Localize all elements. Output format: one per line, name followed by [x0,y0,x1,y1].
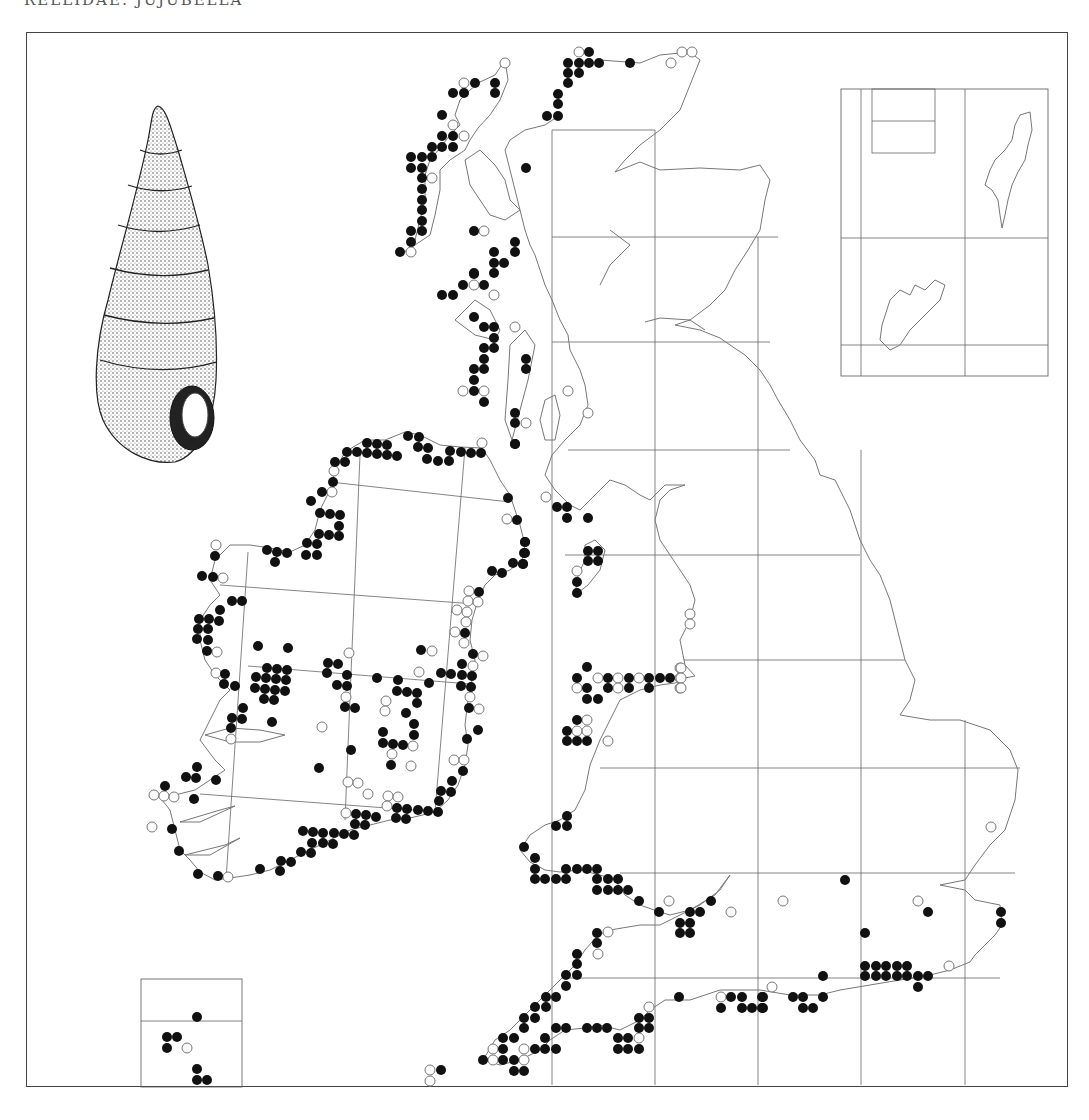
open-record-dot [479,226,489,236]
open-record-dot [510,322,520,332]
filled-record-dot [260,684,270,694]
filled-record-dot [510,247,520,257]
filled-record-dot [314,763,324,773]
filled-record-dot [818,992,828,1002]
filled-record-dot [509,1033,519,1043]
filled-record-dot [456,447,466,457]
open-record-dot [572,566,582,576]
open-record-dot [519,1044,529,1054]
open-record-dot [380,706,390,716]
filled-record-dot [512,515,522,525]
open-record-dot [986,822,996,832]
filled-record-dot [470,78,480,88]
filled-record-dot [230,681,240,691]
open-record-dot [488,1044,498,1054]
filled-record-dot [459,88,469,98]
filled-record-dot [913,982,923,992]
filled-record-dot [593,546,603,556]
filled-record-dot [276,856,286,866]
filled-record-dot [489,333,499,343]
open-record-dot [223,872,233,882]
filled-record-dot [613,1033,623,1043]
filled-record-dot [479,322,489,332]
filled-record-dot [469,386,479,396]
open-record-dot [406,247,416,257]
open-record-dot [459,78,469,88]
filled-record-dot [510,237,520,247]
filled-record-dot [193,624,203,634]
filled-record-dot [392,451,402,461]
filled-record-dot [582,694,592,704]
filled-record-dot [160,781,170,791]
filled-record-dot [351,809,361,819]
filled-record-dot [340,702,350,712]
filled-record-dot [625,58,635,68]
open-record-dot [613,683,623,693]
open-record-dot [685,619,695,629]
filled-record-dot [503,493,513,503]
filled-record-dot [433,456,443,466]
filled-record-dot [402,804,412,814]
filled-record-dot [561,970,571,980]
filled-record-dot [490,78,500,88]
filled-record-dot [395,247,405,257]
open-record-dot [408,741,418,751]
open-record-dot [465,692,475,702]
filled-record-dot [350,819,360,829]
filled-record-dot [499,258,509,268]
filled-record-dot [414,432,424,442]
open-record-dot [603,927,613,937]
filled-record-dot [623,885,633,895]
filled-record-dot [685,928,695,938]
filled-record-dot [328,839,338,849]
filled-record-dot [360,820,370,830]
filled-record-dot [402,687,412,697]
filled-record-dot [521,163,531,173]
filled-record-dot [675,928,685,938]
filled-record-dot [469,375,479,385]
open-record-dot [425,1065,435,1075]
open-record-dot [593,949,603,959]
open-record-dot [344,648,354,658]
filled-record-dot [923,971,933,981]
filled-record-dot [808,1003,818,1013]
filled-record-dot [413,442,423,452]
filled-record-dot [572,673,582,683]
filled-record-dot [593,694,603,704]
filled-record-dot [312,550,322,560]
open-record-dot [489,290,499,300]
filled-record-dot [308,827,318,837]
open-record-dot [381,696,391,706]
filled-record-dot [665,673,675,683]
open-record-dot [464,586,474,596]
filled-record-dot [498,1033,508,1043]
filled-record-dot [446,787,456,797]
open-record-dot [716,992,726,1002]
filled-record-dot [551,992,561,1002]
filled-record-dot [840,875,850,885]
filled-record-dot [582,1023,592,1033]
filled-record-dot [460,628,470,638]
filled-record-dot [489,343,499,353]
filled-record-dot [192,634,202,644]
filled-record-dot [314,529,324,539]
filled-record-dot [644,673,654,683]
filled-record-dot [422,454,432,464]
open-record-dot [767,982,777,992]
filled-record-dot [510,418,520,428]
open-record-dot [613,673,623,683]
filled-record-dot [335,510,345,520]
filled-record-dot [572,864,582,874]
filled-record-dot [563,78,573,88]
filled-record-dot [521,364,531,374]
filled-record-dot [818,971,828,981]
filled-record-dot [250,683,260,693]
filled-record-dot [716,1003,726,1013]
filled-record-dot [409,719,419,729]
filled-record-dot [204,614,214,624]
filled-record-dot [572,715,582,725]
open-record-dot [500,58,510,68]
open-record-dot [583,408,593,418]
filled-record-dot [561,874,571,884]
filled-record-dot [226,723,236,733]
